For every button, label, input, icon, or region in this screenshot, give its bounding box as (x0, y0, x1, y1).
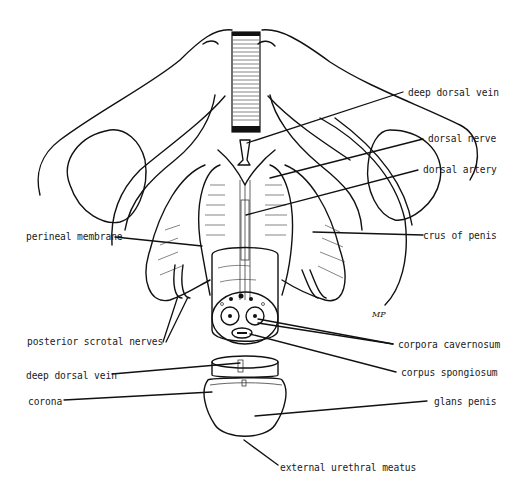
label-external-urethral-meatus: external urethral meatus (280, 462, 416, 473)
label-corpora-cavernosum: corpora cavernosum (398, 339, 500, 350)
glans-section (204, 356, 286, 436)
label-deep-dorsal-vein-right: deep dorsal vein (408, 87, 499, 98)
anatomy-diagram: MP deep dorsal vein dorsal nerve dorsal … (0, 0, 520, 492)
artist-signature: MP (371, 310, 386, 319)
leader-lines (64, 92, 427, 465)
label-perineal-membrane: perineal membrane (26, 231, 123, 242)
diagram-drawing: MP (0, 0, 520, 492)
label-corpus-spongiosum: corpus spongiosum (401, 367, 498, 378)
label-deep-dorsal-vein-left: deep dorsal vein (26, 370, 117, 381)
label-glans-penis: glans penis (434, 396, 496, 407)
label-posterior-scrotal-nerves: posterior scrotal nerves (27, 336, 163, 347)
label-corona: corona (28, 396, 62, 407)
label-dorsal-artery: dorsal artery (423, 164, 497, 175)
label-crus-of-penis: crus of penis (423, 230, 497, 241)
label-dorsal-nerve: dorsal nerve (428, 133, 496, 144)
dorsal-vessels (218, 140, 275, 300)
